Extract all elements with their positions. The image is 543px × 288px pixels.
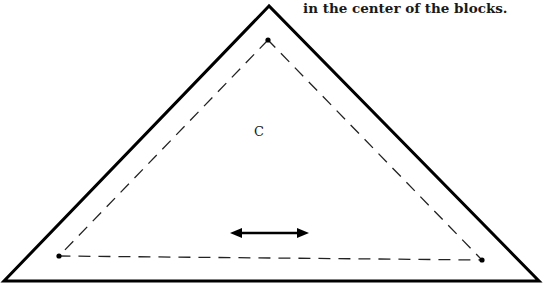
seam-dot-apex xyxy=(265,37,270,42)
instruction-caption: in the center of the blocks. xyxy=(303,0,508,16)
grain-arrow-icon xyxy=(230,228,309,238)
seam-line-triangle xyxy=(59,40,482,260)
seam-dot-left xyxy=(56,253,61,258)
piece-label: C xyxy=(254,124,264,139)
cutting-line-triangle xyxy=(4,6,539,281)
template-diagram xyxy=(0,0,543,288)
seam-dot-right xyxy=(479,257,484,262)
